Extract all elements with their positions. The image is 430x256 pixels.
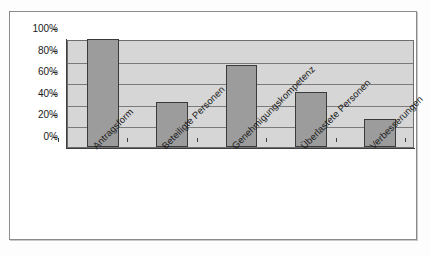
y-axis-line bbox=[66, 39, 67, 149]
x-axis-line bbox=[66, 148, 415, 149]
y-axis-labels: 100%80%60%40%20%0% bbox=[18, 12, 62, 256]
y-axis-tick-label: 100% bbox=[32, 24, 58, 34]
x-axis-tick bbox=[266, 138, 267, 142]
y-axis-tick-label: 60% bbox=[38, 67, 58, 77]
y-axis-tick-label: 80% bbox=[38, 46, 58, 56]
document-page: 100%80%60%40%20%0% AntragsformBeteiligte… bbox=[0, 0, 430, 256]
chart-frame: 100%80%60%40%20%0% AntragsformBeteiligte… bbox=[9, 11, 417, 240]
x-axis-tick bbox=[197, 138, 198, 142]
y-axis-tick-label: 20% bbox=[38, 110, 58, 120]
gridline bbox=[68, 63, 413, 64]
x-axis-tick bbox=[405, 138, 406, 142]
y-axis-tick-label: 40% bbox=[38, 89, 58, 99]
x-axis-tick bbox=[336, 138, 337, 142]
x-axis-tick bbox=[127, 138, 128, 142]
y-axis-tick-label: 0% bbox=[44, 132, 58, 142]
